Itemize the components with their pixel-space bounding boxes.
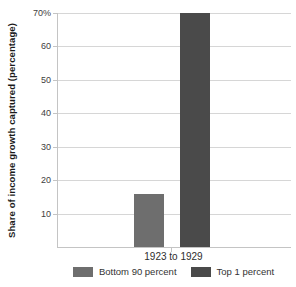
- legend-label-top-1: Top 1 percent: [217, 266, 275, 277]
- bar-chart: Share of income growth captured (percent…: [0, 0, 296, 287]
- gridline-60: [58, 46, 291, 47]
- y-tick-label-40: 40: [17, 108, 51, 118]
- y-tick-label-70: 70%: [17, 8, 51, 18]
- x-axis-label: 1923 to 1929: [57, 251, 290, 262]
- legend-swatch-bottom-90: [73, 267, 93, 277]
- y-tick-label-60: 60: [17, 41, 51, 51]
- gridline-40: [58, 113, 291, 114]
- legend-item-bottom-90: Bottom 90 percent: [73, 266, 177, 277]
- x-tick-mark: [171, 248, 172, 252]
- y-tick-mark-10: [53, 214, 57, 215]
- y-tick-label-20: 20: [17, 175, 51, 185]
- y-tick-label-30: 30: [17, 142, 51, 152]
- y-tick-mark-50: [53, 80, 57, 81]
- y-tick-label-50: 50: [17, 75, 51, 85]
- y-tick-label-10: 10: [17, 209, 51, 219]
- bar-top-1-percent: [180, 13, 210, 247]
- gridline-70: [58, 13, 291, 14]
- legend: Bottom 90 percent Top 1 percent: [57, 266, 290, 277]
- legend-swatch-top-1: [191, 267, 211, 277]
- gridline-50: [58, 80, 291, 81]
- y-tick-mark-60: [53, 46, 57, 47]
- bar-bottom-90-percent: [134, 194, 164, 247]
- y-tick-mark-30: [53, 147, 57, 148]
- y-tick-mark-70: [53, 13, 57, 14]
- gridline-10: [58, 214, 291, 215]
- legend-item-top-1: Top 1 percent: [191, 266, 275, 277]
- y-tick-mark-20: [53, 180, 57, 181]
- gridline-30: [58, 147, 291, 148]
- legend-label-bottom-90: Bottom 90 percent: [99, 266, 177, 277]
- plot-area: [57, 13, 291, 248]
- y-tick-mark-40: [53, 113, 57, 114]
- gridline-20: [58, 180, 291, 181]
